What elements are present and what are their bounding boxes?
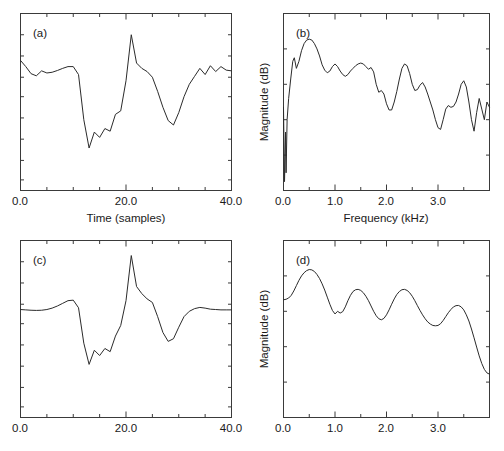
panel-b-xtick-0: 0.0 [275, 195, 291, 207]
panel-a-frame [21, 14, 232, 191]
panel-b-xtick-3: 3.0 [430, 195, 446, 207]
panel-b: (b) 0.0 1.0 2.0 3.0 Frequency (kHz) Magn… [252, 0, 504, 226]
panel-d-xtick-2: 2.0 [378, 422, 394, 434]
panel-b-plot: (b) 0.0 1.0 2.0 3.0 Frequency (kHz) Magn… [252, 0, 504, 226]
panel-d-plot: (d) 0.0 1.0 2.0 3.0 Magnitude (dB) [252, 226, 504, 451]
panel-c-xtick-2: 40.0 [220, 422, 242, 434]
panel-a-tag: (a) [33, 27, 47, 39]
panel-d-xtick-1: 1.0 [327, 422, 343, 434]
panel-a-xtick-1: 20.0 [115, 195, 137, 207]
panel-c-tag: (c) [33, 254, 47, 266]
panel-c-xtick-0: 0.0 [12, 422, 28, 434]
panel-d-dataline [284, 270, 490, 375]
panel-d-xtick-0: 0.0 [275, 422, 291, 434]
panel-d: (d) 0.0 1.0 2.0 3.0 Magnitude (dB) [252, 226, 504, 451]
panel-c-dataline [21, 256, 232, 365]
panel-b-tag: (b) [296, 27, 310, 39]
panel-d-frame [284, 241, 490, 418]
panel-a-ticks [21, 14, 232, 191]
panel-c-ticks [21, 241, 232, 418]
panel-a-dataline [21, 35, 232, 148]
panel-a-xlabel: Time (samples) [87, 212, 166, 224]
panel-b-ylabel: Magnitude (dB) [258, 63, 270, 142]
panel-b-xtick-2: 2.0 [378, 195, 394, 207]
panel-c-xtick-1: 20.0 [115, 422, 137, 434]
panel-c-frame [21, 241, 232, 418]
panel-d-xtick-3: 3.0 [430, 422, 446, 434]
panel-a-plot: (a) 0.0 20.0 40.0 Time (samples) [0, 0, 252, 226]
panel-d-tag: (d) [296, 254, 310, 266]
panel-a: (a) 0.0 20.0 40.0 Time (samples) [0, 0, 252, 226]
panel-d-ticks [284, 241, 490, 418]
panel-b-xlabel: Frequency (kHz) [344, 212, 429, 224]
panel-c-plot: (c) 0.0 20.0 40.0 [0, 226, 252, 451]
figure-canvas: (a) 0.0 20.0 40.0 Time (samples) (b) 0.0… [0, 0, 504, 451]
panel-d-ylabel: Magnitude (dB) [258, 290, 270, 369]
panel-c: (c) 0.0 20.0 40.0 [0, 226, 252, 451]
panel-a-xtick-2: 40.0 [220, 195, 242, 207]
panel-a-xtick-0: 0.0 [12, 195, 28, 207]
panel-b-dataline [284, 39, 490, 181]
panel-b-xtick-1: 1.0 [327, 195, 343, 207]
